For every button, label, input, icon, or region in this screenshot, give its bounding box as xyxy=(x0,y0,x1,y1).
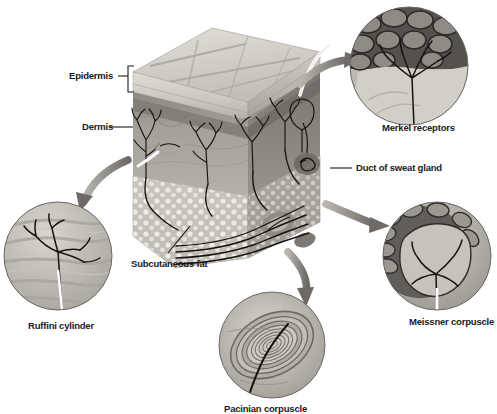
label-merkel-receptors: Merkel receptors xyxy=(382,122,455,133)
label-pacinian-corpuscle: Pacinian corpuscle xyxy=(224,403,307,414)
arrow-to-ruffini-icon xyxy=(76,160,128,212)
leader-epidermis xyxy=(118,66,134,92)
label-meissner-corpuscle: Meissner corpuscle xyxy=(409,316,494,327)
inset-pacinian-corpuscle[interactable] xyxy=(219,292,325,398)
label-ruffini-cylinder: Ruffini cylinder xyxy=(28,320,94,331)
label-dermis: Dermis xyxy=(82,121,113,132)
arrow-to-meissner-icon xyxy=(326,204,390,233)
label-subcutaneous-fat: Subcutaneous fat xyxy=(131,258,208,269)
inset-ruffini-cylinder[interactable] xyxy=(2,202,118,310)
label-duct-of-sweat-gland: Duct of sweat gland xyxy=(356,162,442,173)
skin-block xyxy=(132,28,330,268)
label-epidermis: Epidermis xyxy=(69,70,113,81)
inset-merkel-receptors[interactable] xyxy=(349,7,468,126)
inset-meissner-corpuscle[interactable] xyxy=(375,201,491,312)
